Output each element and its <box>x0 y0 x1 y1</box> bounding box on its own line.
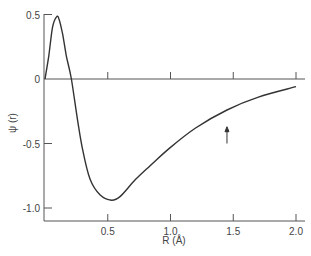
psi-curve <box>45 16 296 200</box>
y-tick-label: -1.0 <box>23 203 41 214</box>
y-tick-label: 0 <box>34 74 40 85</box>
axes <box>44 14 305 221</box>
arrow-annotation <box>225 127 229 144</box>
y-tick-label: 0.5 <box>26 10 40 21</box>
x-tick-label: 2.0 <box>289 226 303 237</box>
y-axis-label: ψ (r) <box>7 113 18 133</box>
chart: 0.51.01.52.00.50-0.5-1.0 R (Å) ψ (r) <box>0 0 311 256</box>
y-tick-label: -0.5 <box>23 139 41 150</box>
arrow-up-icon <box>225 127 229 132</box>
x-tick-label: 0.5 <box>101 226 115 237</box>
x-tick-label: 1.5 <box>226 226 240 237</box>
ticks <box>44 15 296 222</box>
x-axis-label: R (Å) <box>162 234 185 246</box>
